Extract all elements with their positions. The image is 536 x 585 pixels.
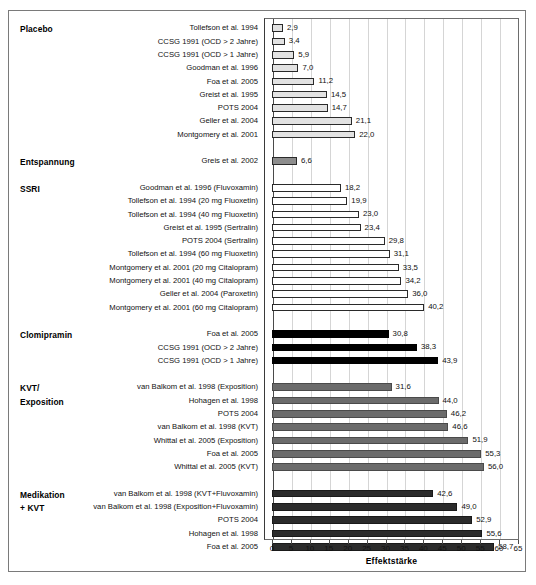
study-label: van Balkom et al. 1998 (Exposition+Fluvo… (93, 502, 258, 512)
bar-value-label: 55,3 (485, 449, 500, 459)
chart-row: Tollefson et al. 19942,9 (8, 22, 526, 35)
bar (272, 304, 424, 312)
chart-row: POTS 200452,9 (8, 514, 526, 527)
bar-value-label: 38,3 (421, 342, 436, 352)
chart-figure: PlaceboTollefson et al. 19942,9CCSG 1991… (0, 0, 536, 585)
bar-value-label: 7,0 (302, 63, 313, 73)
chart-row: Geller et al. 200421,1 (8, 115, 526, 128)
bar (272, 397, 439, 405)
chart-row: van Balkom et al. 1998 (Exposition)31,6 (8, 381, 526, 394)
study-label: Foa et al. 2005 (207, 329, 258, 339)
bar-value-label: 31,6 (396, 382, 411, 392)
tick-label-20: 20 (338, 544, 358, 554)
tick-label-5: 5 (281, 544, 301, 554)
study-label: Hohagen et al. 1998 (189, 529, 258, 539)
bar (272, 383, 392, 391)
chart-row: Goodman et al. 19967,0 (8, 62, 526, 75)
bar-value-label: 30,8 (393, 329, 408, 339)
study-label: Montgomery et al. 2001 (60 mg Citalopram… (109, 303, 258, 313)
bar-value-label: 6,6 (301, 156, 312, 166)
study-label: van Balkom et al. 1998 (KVT+Fluvoxamin) (114, 489, 258, 499)
tick-label-60: 60 (489, 544, 509, 554)
bar-value-label: 11,2 (318, 76, 333, 86)
study-label: CCSG 1991 (OCD > 2 Jahre) (158, 37, 258, 47)
study-label: Montgomery et al. 2001 (40 mg Citalopram… (109, 276, 258, 286)
chart-row: Tollefson et al. 1994 (40 mg Fluoxetin)2… (8, 208, 526, 221)
bar (272, 290, 408, 298)
chart-row: van Balkom et al. 1998 (KVT+Fluvoxamin)4… (8, 488, 526, 501)
study-label: CCSG 1991 (OCD > 1 Jahre) (158, 50, 258, 60)
bar (272, 530, 482, 538)
bar-value-label: 5,9 (298, 50, 309, 60)
study-label: Tollefson et al. 1994 (40 mg Fluoxetin) (128, 210, 258, 220)
bar-value-label: 19,9 (351, 196, 366, 206)
bar (272, 450, 481, 458)
bar (272, 516, 472, 524)
chart-row: Greis et al. 20026,6 (8, 155, 526, 168)
bar (272, 131, 355, 139)
bar-value-label: 23,4 (365, 223, 380, 233)
chart-row: Foa et al. 200530,8 (8, 328, 526, 341)
study-label: POTS 2004 (218, 103, 258, 113)
study-label: Goodman et al. 1996 (Fluvoxamin) (140, 183, 258, 193)
bar-value-label: 52,9 (476, 515, 491, 525)
chart-row: Montgomery et al. 2001 (40 mg Citalopram… (8, 275, 526, 288)
study-label: CCSG 1991 (OCD > 2 Jahre) (158, 343, 258, 353)
chart-row: Goodman et al. 1996 (Fluvoxamin)18,2 (8, 182, 526, 195)
study-label: Greist et al. 1995 (Sertralin) (164, 223, 258, 233)
bar (272, 423, 448, 431)
study-label: Foa et al. 2005 (207, 542, 258, 552)
bar-value-label: 29,8 (389, 236, 404, 246)
bar (272, 410, 447, 418)
bar (272, 78, 314, 86)
bar-value-label: 49,0 (461, 502, 476, 512)
bar-value-label: 34,2 (405, 276, 420, 286)
study-label: Montgomery et al. 2001 (177, 130, 258, 140)
bar-value-label: 46,6 (452, 422, 467, 432)
chart-row: Tollefson et al. 1994 (60 mg Fluoxetin)3… (8, 248, 526, 261)
tick-label-45: 45 (432, 544, 452, 554)
bar (272, 117, 352, 125)
bar-value-label: 21,1 (356, 116, 371, 126)
tick-label-50: 50 (451, 544, 471, 554)
chart-row: van Balkom et al. 1998 (Exposition+Fluvo… (8, 501, 526, 514)
study-label: Geller et al. 2004 (199, 116, 258, 126)
bar (272, 197, 347, 205)
chart-row: Greist et al. 1995 (Sertralin)23,4 (8, 222, 526, 235)
bar-value-label: 36,0 (412, 289, 427, 299)
bar-value-label: 2,9 (287, 23, 298, 33)
tick-label-0: 0 (262, 544, 282, 554)
bar-value-label: 14,5 (331, 90, 346, 100)
study-label: Foa et al. 2005 (207, 77, 258, 87)
bar-value-label: 23,0 (363, 209, 378, 219)
bar (272, 277, 401, 285)
chart-row: POTS 200446,2 (8, 408, 526, 421)
chart-row: Greist et al. 199514,5 (8, 89, 526, 102)
chart-row: Montgomery et al. 2001 (20 mg Citalopram… (8, 261, 526, 274)
tick-label-30: 30 (376, 544, 396, 554)
bar-value-label: 31,1 (394, 249, 409, 259)
bar-value-label: 18,2 (345, 183, 360, 193)
chart-rows: PlaceboTollefson et al. 19942,9CCSG 1991… (8, 18, 526, 540)
study-label: Montgomery et al. 2001 (20 mg Citalopram… (109, 263, 258, 273)
study-label: Whittal et al. 2005 (KVT) (174, 462, 258, 472)
study-label: Hohagen et al. 1998 (189, 396, 258, 406)
chart-row: CCSG 1991 (OCD > 2 Jahre)3,4 (8, 35, 526, 48)
bar (272, 344, 417, 352)
bar-value-label: 56,0 (488, 462, 503, 472)
bar (272, 38, 285, 46)
bar-value-label: 40,2 (428, 302, 443, 312)
bar-value-label: 51,9 (472, 435, 487, 445)
bar-value-label: 44,0 (443, 396, 458, 406)
bar (272, 224, 361, 232)
bar-value-label: 46,2 (451, 409, 466, 419)
bar (272, 437, 468, 445)
study-label: Tollefson et al. 1994 (20 mg Fluoxetin) (128, 196, 258, 206)
chart-row: Foa et al. 200511,2 (8, 75, 526, 88)
tick-label-65: 65 (508, 544, 528, 554)
chart-row: Montgomery et al. 200122,0 (8, 128, 526, 141)
bar (272, 357, 438, 365)
bar (272, 250, 390, 258)
study-label: van Balkom et al. 1998 (Exposition) (137, 382, 258, 392)
bar (272, 64, 298, 72)
